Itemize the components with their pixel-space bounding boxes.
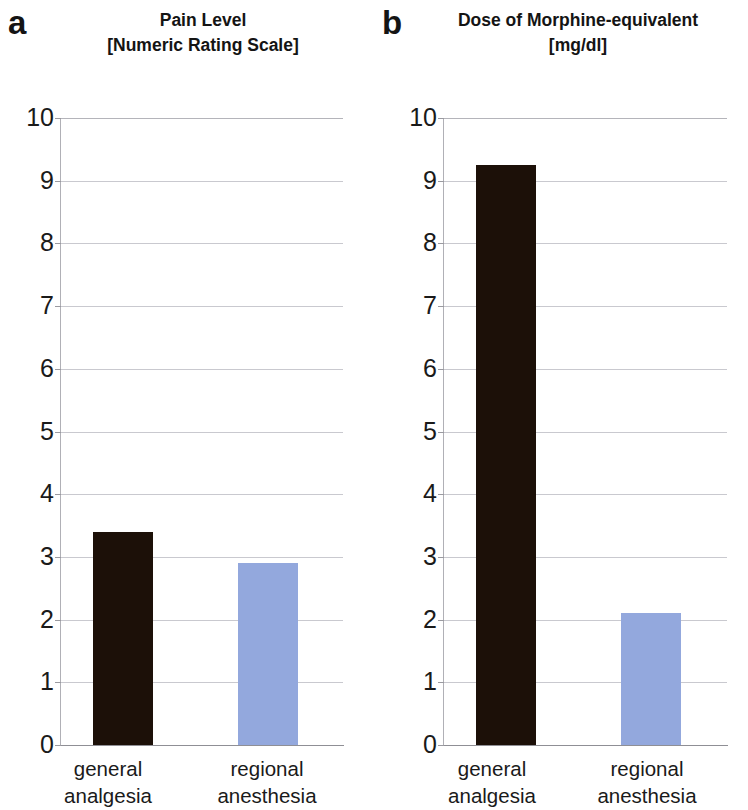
- bar-regional-anesthesia: [238, 563, 298, 745]
- y-tick-label-7: 7: [8, 293, 54, 318]
- panel-a-xlabel-2-line1: regional: [192, 755, 342, 782]
- panel-b-xlabel-regional-anesthesia: regional anesthesia: [572, 755, 722, 810]
- bar-regional-anesthesia: [621, 613, 681, 745]
- y-tick-label-5: 5: [391, 419, 437, 444]
- y-tick-label-2: 2: [8, 607, 54, 632]
- bar-general-analgesia: [476, 165, 536, 745]
- panel-b-y-tick-labels: 109876543210: [374, 0, 437, 810]
- y-tick-label-9: 9: [391, 168, 437, 193]
- panel-a-x-axis-line: [60, 745, 344, 746]
- panel-a-bars: [60, 118, 343, 745]
- panel-a-y-tick-labels: 109876543210: [0, 0, 54, 810]
- y-tick-label-7: 7: [391, 293, 437, 318]
- y-tick-label-10: 10: [8, 105, 54, 130]
- panel-b-plot: 109876543210: [374, 0, 748, 810]
- panel-a-plot: 109876543210: [0, 0, 374, 810]
- y-tick-label-0: 0: [391, 732, 437, 757]
- y-tick-mark-0: [55, 745, 61, 746]
- bar-general-analgesia: [93, 532, 153, 745]
- panel-b-xlabel-2-line1: regional: [572, 755, 722, 782]
- y-tick-label-0: 0: [8, 732, 54, 757]
- panel-a-xlabel-2-line2: anesthesia: [192, 782, 342, 809]
- panel-a-xlabel-1-line2: analgesia: [33, 782, 183, 809]
- y-tick-mark-0: [438, 745, 444, 746]
- y-tick-label-6: 6: [391, 356, 437, 381]
- y-tick-label-9: 9: [8, 168, 54, 193]
- y-tick-label-6: 6: [8, 356, 54, 381]
- panel-a-xlabel-1-line1: general: [33, 755, 183, 782]
- panel-b-x-axis-line: [443, 745, 728, 746]
- y-tick-label-4: 4: [8, 481, 54, 506]
- figure-two-panel-bar-charts: a Pain Level [Numeric Rating Scale] 1098…: [0, 0, 748, 810]
- panel-a: a Pain Level [Numeric Rating Scale] 1098…: [0, 0, 374, 810]
- panel-b-bars: [443, 118, 727, 745]
- y-tick-label-10: 10: [391, 105, 437, 130]
- y-tick-label-3: 3: [8, 544, 54, 569]
- y-tick-label-8: 8: [391, 230, 437, 255]
- y-tick-label-1: 1: [391, 669, 437, 694]
- y-tick-label-8: 8: [8, 230, 54, 255]
- panel-b-xlabel-2-line2: anesthesia: [572, 782, 722, 809]
- panel-a-xlabel-regional-anesthesia: regional anesthesia: [192, 755, 342, 810]
- panel-b: b Dose of Morphine-equivalent [mg/dl] 10…: [374, 0, 748, 810]
- y-tick-label-4: 4: [391, 481, 437, 506]
- panel-b-xlabel-1-line1: general: [417, 755, 567, 782]
- y-tick-label-1: 1: [8, 669, 54, 694]
- panel-b-xlabel-general-analgesia: general analgesia: [417, 755, 567, 810]
- panel-b-xlabel-1-line2: analgesia: [417, 782, 567, 809]
- panel-a-xlabel-general-analgesia: general analgesia: [33, 755, 183, 810]
- y-tick-label-2: 2: [391, 607, 437, 632]
- y-tick-label-5: 5: [8, 419, 54, 444]
- y-tick-label-3: 3: [391, 544, 437, 569]
